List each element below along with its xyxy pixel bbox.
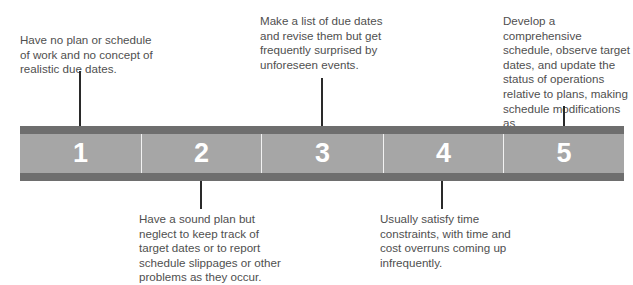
level-1-description: Have no plan or schedule of work and no … xyxy=(20,33,180,77)
text-line: target dates or to report xyxy=(139,241,309,256)
level-3-leader-line xyxy=(321,78,323,126)
text-line: and revise them but get xyxy=(260,29,420,44)
text-line: Have no plan or schedule xyxy=(20,33,180,48)
text-line: constraints, with time and xyxy=(380,227,540,242)
level-1-leader-line xyxy=(79,71,81,126)
scale-bar: 1 2 3 4 5 xyxy=(20,126,624,181)
text-line: realistic due dates. xyxy=(20,62,180,77)
text-line: schedule slippages or other xyxy=(139,256,309,271)
level-number: 3 xyxy=(315,138,330,169)
text-line: Develop a comprehensive xyxy=(503,14,633,43)
level-2-leader-line xyxy=(200,181,202,209)
text-line: Usually satisfy time xyxy=(380,212,540,227)
text-line: cost overruns coming up xyxy=(380,241,540,256)
text-line: Make a list of due dates xyxy=(260,14,420,29)
text-line: status of operations xyxy=(503,72,633,87)
level-4-description: Usually satisfy time constraints, with t… xyxy=(380,212,540,270)
text-line: unforeseen events. xyxy=(260,58,420,73)
text-line: frequently surprised by xyxy=(260,43,420,58)
level-4-segment: 4 xyxy=(383,134,503,173)
level-2-segment: 2 xyxy=(141,134,261,173)
level-5-segment: 5 xyxy=(503,134,624,173)
text-line: neglect to keep track of xyxy=(139,227,309,242)
level-number: 4 xyxy=(436,138,451,169)
text-line: schedule, observe target xyxy=(503,43,633,58)
level-3-segment: 3 xyxy=(261,134,383,173)
level-2-description: Have a sound plan but neglect to keep tr… xyxy=(139,212,309,285)
level-3-description: Make a list of due dates and revise them… xyxy=(260,14,420,72)
level-5-leader-line xyxy=(563,106,565,126)
text-line: dates, and update the xyxy=(503,58,633,73)
text-line: infrequently. xyxy=(380,256,540,271)
level-4-leader-line xyxy=(441,181,443,209)
text-line: Have a sound plan but xyxy=(139,212,309,227)
text-line: of work and no concept of xyxy=(20,48,180,63)
level-number: 1 xyxy=(73,138,88,169)
level-1-segment: 1 xyxy=(20,134,141,173)
text-line: relative to plans, making xyxy=(503,87,633,102)
level-number: 5 xyxy=(556,138,571,169)
level-number: 2 xyxy=(194,138,209,169)
text-line: problems as they occur. xyxy=(139,270,309,285)
scale-bar-segments: 1 2 3 4 5 xyxy=(20,134,624,173)
